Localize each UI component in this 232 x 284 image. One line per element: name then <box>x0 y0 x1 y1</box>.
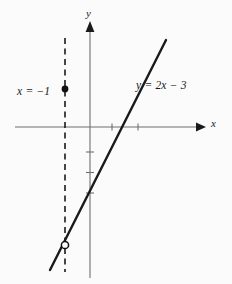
x-axis <box>15 122 206 131</box>
coordinate-plane <box>0 0 232 284</box>
y-axis <box>86 21 95 278</box>
open-point-marker <box>61 241 68 248</box>
line-y-equals-2x-minus-3 <box>50 40 166 270</box>
x-axis-label: x <box>211 118 216 129</box>
y-axis-label: y <box>86 8 91 19</box>
line-equation-label: y = 2x − 3 <box>136 80 187 92</box>
graph-figure: y x x = −1 y = 2x − 3 <box>0 0 232 284</box>
vertical-line-label: x = −1 <box>17 86 50 98</box>
filled-point-marker <box>62 86 69 93</box>
x-axis-arrowhead-icon <box>196 122 206 131</box>
y-axis-arrowhead-icon <box>86 21 95 32</box>
